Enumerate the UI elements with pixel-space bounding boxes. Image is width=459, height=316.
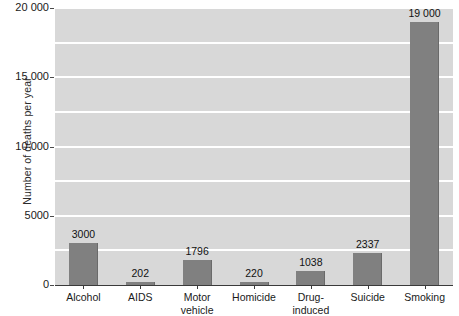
gridline [55, 111, 453, 113]
bar-chart: Number of deaths per year 0500010 00015 … [0, 0, 459, 316]
x-axis-tick-label-line: Homicide [226, 291, 283, 304]
x-axis-tick-label-line: Motor [169, 291, 226, 304]
x-axis-tick-mark [254, 285, 255, 289]
bar[interactable] [69, 243, 98, 285]
bar[interactable] [183, 260, 212, 285]
x-axis-tick-mark [368, 285, 369, 289]
y-axis-tick-label: 5000 [1, 209, 49, 221]
gridline [55, 215, 453, 217]
gridline [55, 180, 453, 182]
bar-value-label: 1796 [169, 245, 226, 257]
x-axis-tick-mark [197, 285, 198, 289]
gridline [55, 76, 453, 78]
y-axis-tick-label: 15 000 [1, 70, 49, 82]
x-axis-tick-label: Homicide [226, 291, 283, 304]
plot-area: 300020217962201038233719 000 [55, 8, 453, 285]
y-axis-tick-mark [50, 8, 54, 9]
y-axis-tick-label: 20 000 [1, 1, 49, 13]
x-axis-tick-mark [425, 285, 426, 289]
bar[interactable] [296, 271, 325, 285]
x-axis-tick-mark [83, 285, 84, 289]
gridline [55, 249, 453, 251]
x-axis-tick-label: Drug-induced [282, 291, 339, 316]
y-axis-tick-labels: 0500010 00015 00020 000 [0, 0, 49, 316]
x-axis-tick-label: AIDS [112, 291, 169, 304]
bar[interactable] [353, 253, 382, 285]
x-axis-tick-mark [140, 285, 141, 289]
x-axis-tick-label-line: vehicle [169, 304, 226, 316]
x-axis-tick-label-line: Suicide [339, 291, 396, 304]
y-axis-tick-mark [50, 216, 54, 217]
gridline [55, 42, 453, 44]
x-axis-tick-label: Smoking [396, 291, 453, 304]
y-axis-tick-label: 10 000 [1, 140, 49, 152]
bar-value-label: 1038 [282, 256, 339, 268]
x-axis-tick-label-line: Drug- [282, 291, 339, 304]
bar-value-label: 2337 [339, 238, 396, 250]
bar-value-label: 202 [112, 267, 169, 279]
x-axis-tick-label-line: AIDS [112, 291, 169, 304]
x-axis-tick-label: Motorvehicle [169, 291, 226, 316]
y-axis-tick-mark [50, 77, 54, 78]
x-axis-tick-label-line: Smoking [396, 291, 453, 304]
x-axis-tick-mark [311, 285, 312, 289]
x-axis-tick-label-line: induced [282, 304, 339, 316]
x-axis-tick-label: Alcohol [55, 291, 112, 304]
bar-value-label: 19 000 [396, 7, 453, 19]
y-axis-tick-label: 0 [1, 278, 49, 290]
x-axis-tick-label: Suicide [339, 291, 396, 304]
bar[interactable] [410, 22, 439, 285]
gridline [55, 7, 453, 9]
y-axis-tick-mark [50, 147, 54, 148]
bar-value-label: 220 [226, 267, 283, 279]
x-axis-tick-label-line: Alcohol [55, 291, 112, 304]
bar-value-label: 3000 [55, 228, 112, 240]
gridline [55, 146, 453, 148]
y-axis-tick-mark [50, 285, 54, 286]
